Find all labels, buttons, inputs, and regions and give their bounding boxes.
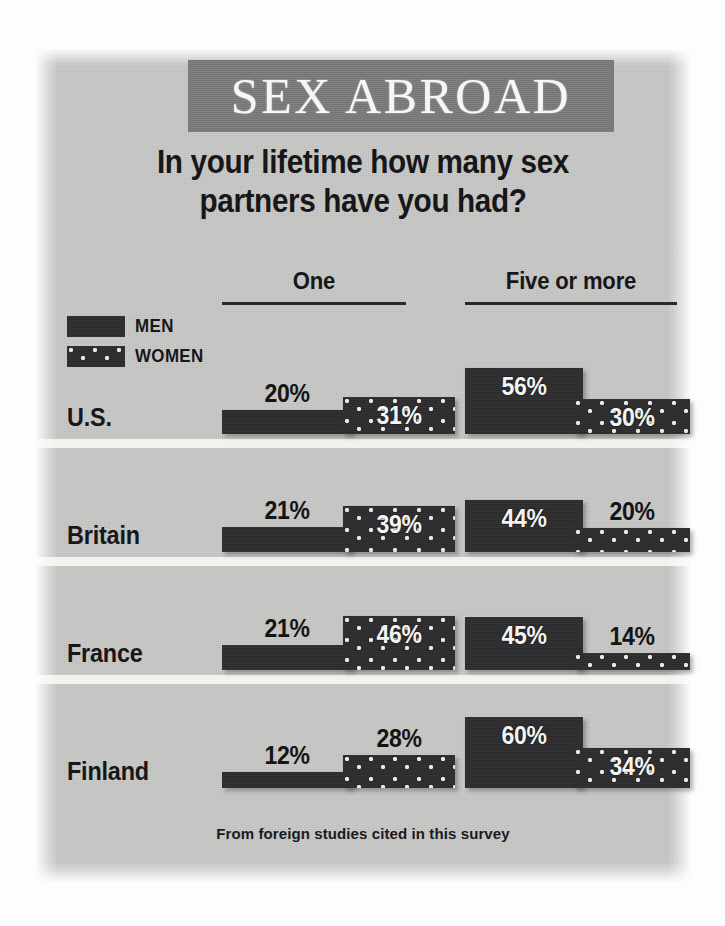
bar-value-women-five_or_more: 20% (609, 499, 654, 524)
bar-men-one (222, 527, 352, 552)
bar-value-women-one: 39% (376, 512, 421, 537)
row-divider (36, 557, 690, 566)
bar-value-women-five_or_more: 34% (609, 754, 654, 779)
legend: MEN WOMEN (67, 314, 208, 374)
bar-value-men-five_or_more: 60% (501, 723, 546, 748)
legend-item-men: MEN (67, 314, 208, 339)
bar-value-women-five_or_more: 14% (609, 624, 654, 649)
row-divider (36, 439, 690, 448)
row-label-britain: Britain (67, 522, 140, 548)
legend-label-women: WOMEN (135, 346, 204, 367)
title-banner: SEX ABROAD (188, 60, 614, 132)
bar-value-women-five_or_more: 30% (609, 405, 654, 430)
bar-value-women-one: 46% (376, 622, 421, 647)
bar-value-women-one: 28% (376, 726, 421, 751)
chart-subtitle: In your lifetime how many sex partners h… (69, 142, 658, 220)
legend-item-women: WOMEN (67, 344, 208, 369)
column-rule-one (222, 302, 406, 305)
bar-value-men-one: 12% (264, 743, 309, 768)
row-label-france: France (67, 640, 143, 666)
table-row: Finland12%28%60%34% (36, 684, 690, 802)
bar-value-men-one: 20% (264, 381, 309, 406)
row-label-finland: Finland (67, 758, 149, 784)
chart-footnote: From foreign studies cited in this surve… (36, 825, 690, 842)
row-label-us: U.S. (67, 404, 112, 430)
chart-panel: SEX ABROAD In your lifetime how many sex… (36, 50, 690, 882)
bar-women-five_or_more (574, 528, 690, 552)
bar-women-one (343, 755, 455, 788)
subtitle-line-2: partners have you had? (69, 181, 658, 220)
bar-value-men-five_or_more: 45% (501, 623, 546, 648)
column-rule-five-or-more (465, 302, 677, 305)
column-header-one: One (229, 268, 398, 294)
row-divider (36, 675, 690, 684)
bar-value-men-five_or_more: 56% (501, 374, 546, 399)
subtitle-line-1: In your lifetime how many sex (69, 142, 658, 181)
bar-men-one (222, 645, 352, 670)
bar-value-men-five_or_more: 44% (501, 506, 546, 531)
bar-men-one (222, 772, 352, 788)
scanned-page: SEX ABROAD In your lifetime how many sex… (0, 0, 725, 926)
bar-value-women-one: 31% (376, 403, 421, 428)
table-row: France21%46%45%14% (36, 566, 690, 684)
page-title: SEX ABROAD (231, 71, 571, 121)
bar-men-one (222, 410, 352, 434)
legend-swatch-women-icon (67, 346, 125, 367)
bar-women-five_or_more (574, 653, 690, 670)
legend-swatch-men-icon (67, 316, 125, 337)
table-row: Britain21%39%44%20% (36, 448, 690, 566)
column-header-five-or-more: Five or more (473, 268, 668, 294)
bar-value-men-one: 21% (264, 616, 309, 641)
legend-label-men: MEN (135, 316, 174, 337)
bar-value-men-one: 21% (264, 498, 309, 523)
